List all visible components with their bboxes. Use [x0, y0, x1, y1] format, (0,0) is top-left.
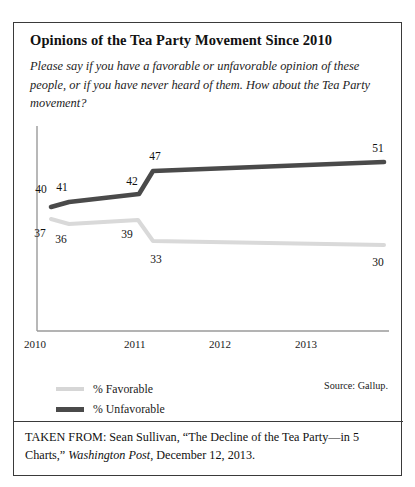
x-tick-label-2012: 2012 [209, 338, 231, 350]
figure-frame: Opinions of the Tea Party Movement Since… [13, 22, 402, 476]
point-label-fav-39: 39 [121, 228, 133, 240]
caption-text-line2: , December 12, 2013. [150, 448, 255, 462]
point-label-unfav-40: 40 [35, 183, 47, 195]
point-label-fav-30: 30 [372, 256, 384, 268]
x-tick-label-2010: 2010 [24, 338, 47, 350]
point-label-unfav-47: 47 [149, 150, 161, 162]
chart-legend: % Favorable % Unfavorable [56, 379, 256, 419]
figure-page: Opinions of the Tea Party Movement Since… [0, 0, 415, 487]
figure-caption: TAKEN FROM: Sean Sullivan, “The Decline … [25, 429, 391, 464]
point-label-fav-37: 37 [34, 227, 46, 239]
legend-item-favorable: % Favorable [56, 379, 256, 399]
series-line-unfavorable [51, 162, 384, 207]
legend-label-unfavorable: % Unfavorable [93, 402, 165, 417]
source-note: Source: Gallup. [324, 380, 388, 391]
legend-item-unfavorable: % Unfavorable [56, 399, 256, 419]
point-label-unfav-42: 42 [126, 175, 138, 187]
series-line-favorable [51, 219, 384, 245]
line-chart: 2010 2011 2012 2013 40 41 42 47 51 37 36… [14, 23, 403, 383]
legend-swatch-favorable-icon [56, 387, 84, 391]
x-tick-label-2013: 2013 [295, 338, 318, 350]
x-tick-label-2011: 2011 [124, 338, 146, 350]
point-label-unfav-51: 51 [372, 142, 384, 154]
point-label-fav-36: 36 [55, 233, 67, 245]
point-label-unfav-41: 41 [56, 181, 68, 193]
caption-publication: Washington Post [68, 448, 150, 462]
point-label-fav-33: 33 [150, 253, 162, 265]
legend-label-favorable: % Favorable [93, 382, 153, 397]
legend-swatch-unfavorable-icon [56, 407, 84, 412]
caption-divider [14, 421, 403, 422]
